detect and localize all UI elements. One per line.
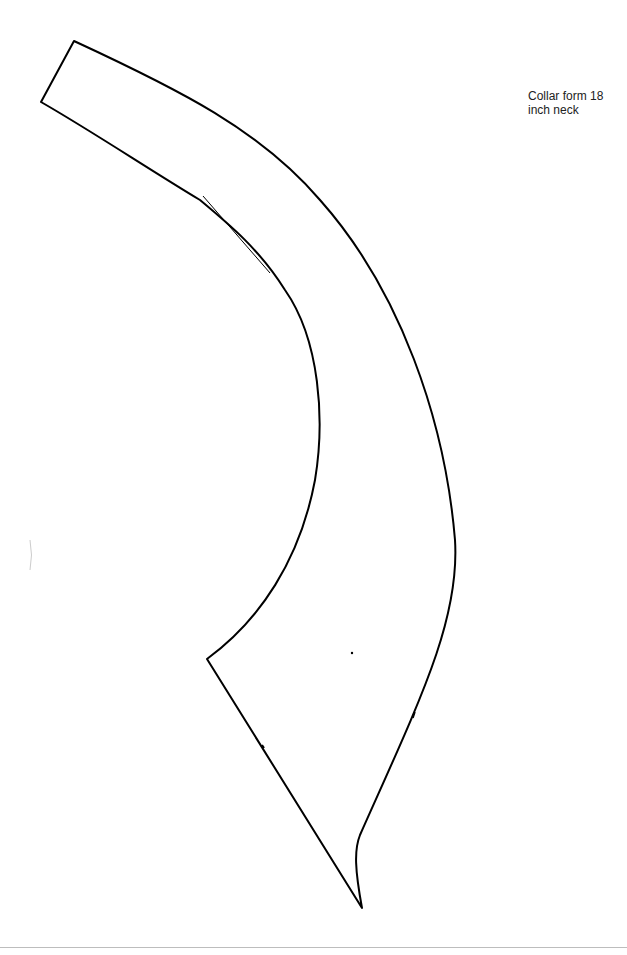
collar-pattern-outline [0, 0, 627, 955]
page-bottom-rule [0, 947, 627, 948]
edge-tick-mark [203, 196, 270, 273]
margin-mark [30, 540, 32, 570]
dot-mark [351, 652, 353, 654]
pattern-label: Collar form 18 inch neck [528, 89, 603, 117]
collar-shape [41, 41, 455, 908]
